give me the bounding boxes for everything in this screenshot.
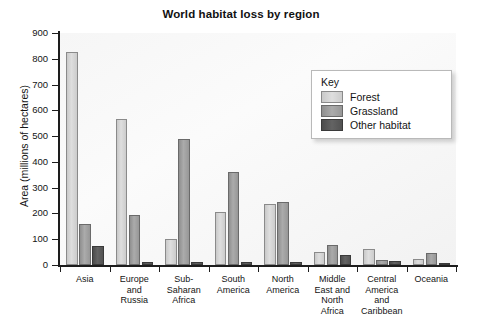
y-tick-label: 300 [8, 183, 48, 193]
bar-grassland [277, 202, 289, 265]
legend-label: Other habitat [350, 119, 411, 131]
bar-grassland [228, 172, 240, 265]
legend-swatch-icon [321, 91, 343, 103]
bar-other-habitat [241, 262, 253, 265]
bar-chart: World habitat loss by region Area (milli… [0, 0, 482, 330]
bar-forest [363, 249, 375, 265]
legend-title: Key [321, 76, 443, 88]
y-tick-label: 900 [8, 28, 48, 38]
x-axis-label: Oceania [403, 274, 461, 285]
y-tick-label: 500 [8, 131, 48, 141]
bar-other-habitat [389, 261, 401, 265]
y-tick-mark [52, 162, 58, 163]
x-tick-mark [60, 267, 61, 272]
legend-swatch-icon [321, 105, 343, 117]
legend-entry-forest: Forest [321, 91, 443, 103]
bar-other-habitat [439, 263, 451, 265]
y-tick-mark [52, 213, 58, 214]
x-tick-mark [357, 267, 358, 272]
bar-grassland [129, 215, 141, 265]
y-tick-mark [52, 188, 58, 189]
bar-forest [165, 239, 177, 265]
x-tick-mark [258, 267, 259, 272]
bar-grassland [426, 253, 438, 265]
bar-grassland [327, 245, 339, 265]
x-tick-mark [456, 267, 457, 272]
bar-forest [116, 119, 128, 265]
bar-forest [66, 52, 78, 265]
bar-grassland [178, 139, 190, 265]
y-tick-label: 400 [8, 157, 48, 167]
y-tick-mark [52, 265, 58, 266]
legend-swatch-icon [321, 119, 343, 131]
bar-other-habitat [340, 255, 352, 265]
y-tick-label: 100 [8, 234, 48, 244]
y-tick-label: 700 [8, 80, 48, 90]
y-tick-mark [52, 239, 58, 240]
y-tick-mark [52, 59, 58, 60]
y-tick-label: 600 [8, 105, 48, 115]
bar-other-habitat [92, 246, 104, 265]
y-tick-mark [52, 85, 58, 86]
legend-entries: ForestGrasslandOther habitat [321, 91, 443, 131]
bar-other-habitat [290, 262, 302, 265]
bars-layer [60, 33, 456, 265]
legend-entry-other-habitat: Other habitat [321, 119, 443, 131]
y-tick-label: 200 [8, 208, 48, 218]
bar-forest [215, 212, 227, 265]
x-tick-mark [209, 267, 210, 272]
y-tick-mark [52, 110, 58, 111]
bar-other-habitat [142, 262, 154, 265]
bar-forest [264, 204, 276, 265]
bar-forest [413, 259, 425, 265]
legend-entry-grassland: Grassland [321, 105, 443, 117]
x-tick-mark [308, 267, 309, 272]
y-tick-label: 0 [8, 260, 48, 270]
legend-label: Grassland [350, 105, 398, 117]
x-tick-mark [110, 267, 111, 272]
legend-label: Forest [350, 91, 380, 103]
bar-grassland [79, 224, 91, 265]
bar-forest [314, 252, 326, 265]
chart-title: World habitat loss by region [0, 8, 482, 20]
x-tick-mark [407, 267, 408, 272]
y-tick-mark [52, 33, 58, 34]
bar-other-habitat [191, 262, 203, 265]
bar-grassland [376, 260, 388, 265]
y-tick-mark [52, 136, 58, 137]
x-tick-mark [159, 267, 160, 272]
y-tick-label: 800 [8, 54, 48, 64]
legend: Key ForestGrasslandOther habitat [311, 70, 452, 139]
